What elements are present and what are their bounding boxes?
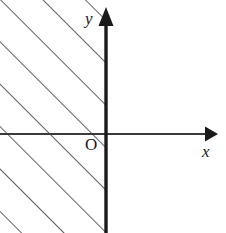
coordinate-plane-svg <box>0 0 226 233</box>
y-axis-label: y <box>85 10 93 27</box>
coordinate-plane-figure: y x O <box>0 0 226 233</box>
origin-label: O <box>85 136 97 153</box>
x-axis-label: x <box>202 143 210 160</box>
